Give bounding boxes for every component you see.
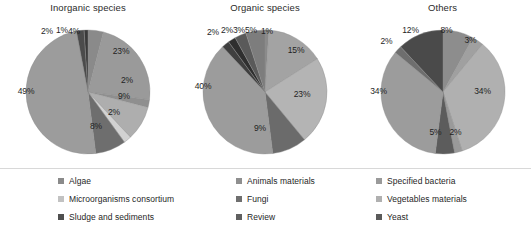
legend-swatch-icon [376, 214, 382, 220]
pie-wrap-1: 1%15%23%9%40%2%2%3%5% [201, 28, 329, 156]
legend-column-2: Animals materialsFungiReview [236, 173, 376, 226]
legend-label: Microorganisms consortium [69, 194, 174, 204]
legend-item[interactable]: Review [236, 209, 376, 225]
legend-swatch-icon [58, 178, 64, 184]
chart-others: Others 8%3%34%2%5%34%2%12% [354, 0, 531, 168]
legend-swatch-icon [58, 196, 64, 202]
pie-chart-0 [24, 28, 152, 156]
legend-item[interactable]: Vegetables materials [376, 191, 531, 207]
legend-label: Fungi [247, 194, 269, 204]
charts-row: Inorganic species 4%23%2%9%2%8%49%2%1% O… [0, 0, 531, 168]
pie-chart-1 [201, 28, 329, 156]
legend-item[interactable]: Sludge and sediments [58, 209, 238, 225]
chart-title: Others [354, 2, 531, 14]
legend-swatch-icon [236, 178, 242, 184]
legend-label: Vegetables materials [387, 194, 467, 204]
legend-column-3: Specified bacteriaVegetables materialsYe… [376, 173, 531, 226]
legend-item[interactable]: Yeast [376, 209, 531, 225]
pie-wrap-0: 4%23%2%9%2%8%49%2%1% [24, 28, 152, 156]
legend-swatch-icon [236, 196, 242, 202]
legend-item[interactable]: Microorganisms consortium [58, 191, 238, 207]
legend-swatch-icon [58, 214, 64, 220]
legend-label: Algae [69, 176, 91, 186]
legend-label: Review [247, 212, 275, 222]
legend-column-1: AlgaeMicroorganisms consortiumSludge and… [58, 173, 238, 226]
legend-item[interactable]: Algae [58, 173, 238, 189]
legend-item[interactable]: Animals materials [236, 173, 376, 189]
chart-title: Inorganic species [0, 2, 176, 14]
pie-chart-figure: Inorganic species 4%23%2%9%2%8%49%2%1% O… [0, 0, 531, 226]
legend-label: Sludge and sediments [69, 212, 154, 222]
legend-item[interactable]: Fungi [236, 191, 376, 207]
legend: AlgaeMicroorganisms consortiumSludge and… [0, 168, 531, 226]
legend-label: Specified bacteria [387, 176, 455, 186]
legend-swatch-icon [376, 178, 382, 184]
pie-chart-2 [379, 28, 507, 156]
legend-label: Yeast [387, 212, 408, 222]
legend-swatch-icon [376, 196, 382, 202]
chart-organic-species: Organic species 1%15%23%9%40%2%2%3%5% [176, 0, 354, 168]
pie-wrap-2: 8%3%34%2%5%34%2%12% [379, 28, 507, 156]
chart-inorganic-species: Inorganic species 4%23%2%9%2%8%49%2%1% [0, 0, 176, 168]
legend-item[interactable]: Specified bacteria [376, 173, 531, 189]
legend-label: Animals materials [247, 176, 315, 186]
chart-title: Organic species [176, 2, 354, 14]
legend-swatch-icon [236, 214, 242, 220]
